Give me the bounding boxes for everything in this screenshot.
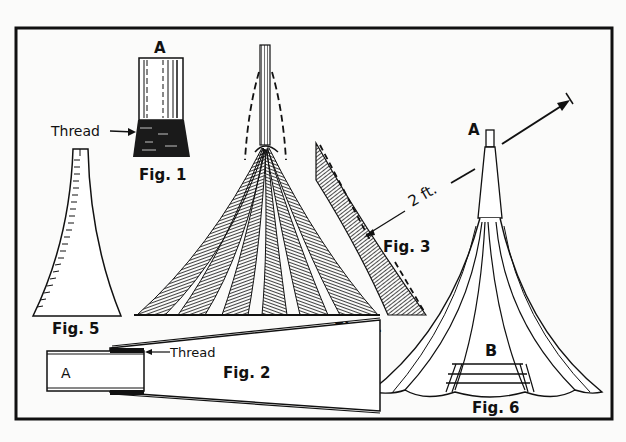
- fig6-label-a: A: [468, 121, 480, 139]
- fig6-caption: Fig. 6: [472, 399, 519, 417]
- fig6-drawing: A B Fig. 6: [370, 121, 602, 417]
- illustration-plate: A Thread Fig. 1: [0, 0, 626, 442]
- fig1-thread-label: Thread: [50, 123, 100, 139]
- fig2-thread-label: Thread: [169, 345, 215, 360]
- fig5-caption: Fig. 5: [52, 320, 99, 338]
- fig6-label-b: B: [485, 341, 497, 360]
- fig1-drawing: A Thread Fig. 1: [50, 39, 190, 184]
- fig3-caption: Fig. 3: [383, 238, 430, 256]
- dimension-label: 2 ft.: [405, 180, 440, 211]
- fig2-caption: Fig. 2: [223, 364, 270, 382]
- fig2-label-a: A: [61, 365, 71, 381]
- fig5-drawing: Fig. 5: [33, 149, 121, 338]
- fig1-caption: Fig. 1: [139, 166, 186, 184]
- fig1-label-a: A: [154, 39, 166, 57]
